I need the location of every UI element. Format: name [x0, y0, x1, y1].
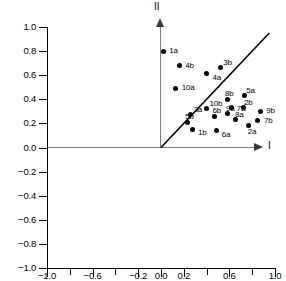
x-tick [115, 269, 116, 275]
y-tick-label: −0.6 [2, 215, 36, 225]
identity-line [0, 0, 286, 281]
y-tick [39, 99, 47, 100]
x-tick [207, 269, 208, 275]
y-tick [39, 148, 47, 149]
data-point-label: 1b [198, 129, 207, 137]
data-point [190, 127, 195, 132]
y-tick [39, 123, 47, 124]
data-point-label: 8a [235, 111, 244, 119]
data-point-label: 9a [226, 105, 235, 113]
scatter-plot: −1.0−0.8−0.6−0.4−0.20.00.20.40.60.81.0 −… [0, 0, 286, 281]
data-point-label: 7b [264, 117, 273, 125]
y-tick-label: 0.6 [2, 70, 36, 80]
data-point-label: 8b [225, 90, 234, 98]
data-point-label: 1a [169, 47, 178, 55]
axis-i-label: I [268, 141, 271, 151]
axis-ii-line [160, 24, 161, 148]
x-tick [70, 269, 71, 275]
x-tick-label: 1.0 [255, 271, 286, 281]
x-tick-label: −0.6 [73, 271, 113, 281]
data-point-label: 2b [244, 99, 253, 107]
data-point-label: 6b [213, 107, 222, 115]
x-tick-label: 0.6 [209, 271, 249, 281]
axis-i-line [48, 147, 256, 148]
data-point [214, 128, 219, 133]
data-point [173, 86, 178, 91]
y-tick-label: −0.2 [2, 167, 36, 177]
data-point-label: 9b [266, 107, 275, 115]
axis-i-arrowhead-icon [254, 143, 263, 151]
y-tick [39, 27, 47, 28]
data-point-label: 5b [185, 113, 194, 121]
y-tick [39, 268, 47, 269]
data-point [204, 106, 209, 111]
y-tick-label: 0.0 [2, 143, 36, 153]
y-tick-label: −0.4 [2, 191, 36, 201]
x-tick [252, 269, 253, 275]
data-point-label: 4b [185, 62, 194, 70]
y-tick [39, 172, 47, 173]
data-point [204, 71, 209, 76]
data-point-label: 4a [213, 74, 222, 82]
data-point [177, 63, 182, 68]
y-tick [39, 196, 47, 197]
y-tick-label: 0.2 [2, 118, 36, 128]
y-tick [39, 51, 47, 52]
data-point [161, 49, 166, 54]
data-point-label: 2a [248, 128, 257, 136]
data-point-label: 5a [246, 87, 255, 95]
x-tick-label: 0.2 [164, 271, 204, 281]
data-point-label: 10a [182, 84, 195, 92]
axis-ii-arrowhead-icon [156, 18, 164, 27]
data-point [218, 65, 223, 70]
y-tick-label: 0.4 [2, 94, 36, 104]
data-point [258, 109, 263, 114]
y-tick [39, 75, 47, 76]
data-point [255, 118, 260, 123]
axis-ii-label: II [154, 2, 160, 12]
y-tick [39, 244, 47, 245]
y-tick [39, 220, 47, 221]
x-tick-label: −1.0 [27, 271, 67, 281]
data-point-label: 3b [223, 59, 232, 67]
data-point-label: 6a [222, 131, 231, 139]
data-point-label: 3a [194, 106, 203, 114]
y-tick-label: 0.8 [2, 46, 36, 56]
y-tick-label: 1.0 [2, 22, 36, 32]
y-tick-label: −0.8 [2, 239, 36, 249]
